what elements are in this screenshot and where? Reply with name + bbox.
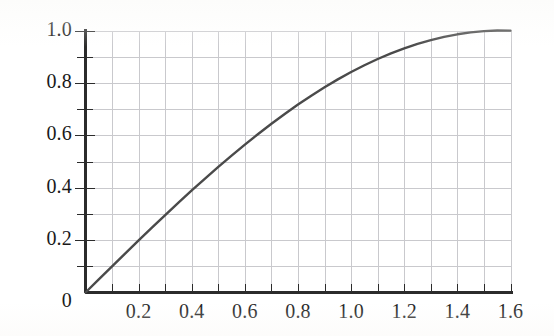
x-tick-label-1.0: 1.0 <box>328 300 374 323</box>
y-tick-label-0.2: 0.2 <box>14 227 72 250</box>
y-tick-label-0: 0 <box>44 289 72 312</box>
x-tick-label-0.6: 0.6 <box>222 300 268 323</box>
x-tick-label-0.4: 0.4 <box>169 300 215 323</box>
x-axis-ticks <box>113 284 512 293</box>
line-chart-plot <box>0 0 554 336</box>
vertical-gridlines <box>87 31 512 293</box>
y-tick-label-1.0: 1.0 <box>14 18 72 41</box>
y-tick-label-0.4: 0.4 <box>14 175 72 198</box>
x-tick-label-1.6: 1.6 <box>488 300 534 323</box>
x-tick-label-1.4: 1.4 <box>434 300 480 323</box>
figure-canvas: 00.20.40.60.81.0 0.20.40.60.81.01.21.41.… <box>0 0 554 336</box>
x-tick-label-1.2: 1.2 <box>381 300 427 323</box>
y-tick-label-0.6: 0.6 <box>14 122 72 145</box>
x-tick-label-0.8: 0.8 <box>275 300 321 323</box>
y-tick-label-0.8: 0.8 <box>14 70 72 93</box>
x-tick-label-0.2: 0.2 <box>116 300 162 323</box>
